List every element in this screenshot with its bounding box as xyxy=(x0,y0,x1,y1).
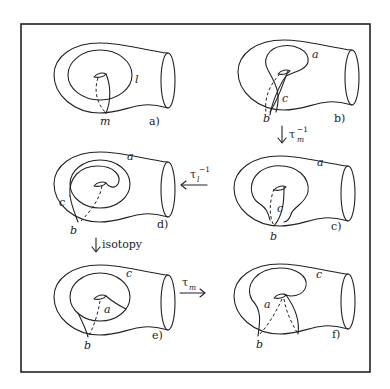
panel-label-b: b) xyxy=(334,112,345,125)
figure-frame xyxy=(21,24,370,372)
label-l: l xyxy=(135,73,139,86)
curve-b-back xyxy=(88,301,100,337)
svg-text:−1: −1 xyxy=(297,125,308,134)
panel-label-e: e) xyxy=(152,329,163,342)
panel-e: c a b e) xyxy=(54,265,175,352)
dehn-twist-diagram: l m a) a c b b) τ m −1 a c b d) τ l xyxy=(0,0,390,389)
curve-l xyxy=(68,50,132,100)
panel-a: l m a) xyxy=(54,43,175,128)
label-b: b xyxy=(84,339,91,352)
arrow-tau-m: τ m xyxy=(180,276,205,297)
label-b: b xyxy=(270,230,277,243)
panel-c: a c b c) xyxy=(234,156,355,243)
label-c: c xyxy=(59,196,65,209)
svg-text:m: m xyxy=(297,135,304,144)
svg-text:isotopy: isotopy xyxy=(102,238,143,251)
label-m: m xyxy=(100,115,110,128)
curve-c xyxy=(250,268,307,336)
curve-m-front xyxy=(106,74,110,113)
panel-label-f: f) xyxy=(332,328,340,341)
svg-text:τ: τ xyxy=(182,276,188,289)
arrow-isotopy: isotopy xyxy=(92,238,143,252)
panel-f: c a b f) xyxy=(234,264,355,351)
panel-label-d: d) xyxy=(157,218,168,231)
curve-a-front xyxy=(286,295,298,334)
svg-text:l: l xyxy=(197,175,200,184)
panel-d: a c b d) xyxy=(54,150,175,237)
label-b: b xyxy=(70,224,77,237)
label-c: c xyxy=(277,202,283,215)
label-c: c xyxy=(282,92,288,105)
panel-label-a: a) xyxy=(149,115,160,128)
curve-a xyxy=(70,160,130,208)
arrow-tau-l-inverse: τ l −1 xyxy=(181,165,210,189)
svg-text:m: m xyxy=(189,283,196,292)
panel-b: a c b b) xyxy=(238,40,359,125)
label-a: a xyxy=(127,150,134,163)
curve-a-back-2 xyxy=(284,299,298,334)
label-a: a xyxy=(104,303,111,316)
svg-text:−1: −1 xyxy=(199,165,210,174)
label-b: b xyxy=(263,112,270,125)
label-a: a xyxy=(264,298,271,311)
curve-m-back xyxy=(96,78,106,113)
label-c: c xyxy=(316,268,322,281)
label-c: c xyxy=(126,267,132,280)
label-b: b xyxy=(256,338,263,351)
svg-text:τ: τ xyxy=(190,168,196,181)
label-a: a xyxy=(312,48,319,61)
panel-label-c: c) xyxy=(331,220,341,233)
arrow-tau-m-inverse: τ m −1 xyxy=(278,125,308,144)
curve-c-back xyxy=(270,189,274,226)
label-a: a xyxy=(317,156,324,169)
curve-c-spiral xyxy=(70,166,119,196)
svg-text:τ: τ xyxy=(289,128,295,141)
